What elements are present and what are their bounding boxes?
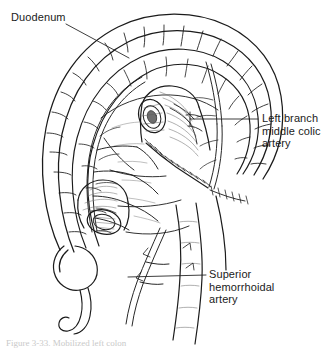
- label-left-branch-middle-colic-artery: Left branchmiddle colicartery: [262, 112, 321, 150]
- leader-duodenum: [66, 24, 129, 58]
- label-line-1: Left branch: [262, 112, 318, 124]
- cecum: [53, 246, 97, 290]
- label-line-2: hemorrhoidal: [209, 281, 274, 293]
- anatomical-figure: Duodenum Left branchmiddle colicartery S…: [0, 0, 328, 349]
- vascular-twigs: [96, 98, 218, 213]
- label-superior-hemorrhoidal-artery: Superiorhemorrhoidalartery: [209, 268, 274, 306]
- figure-caption: Figure 3-33. Mobilized left colon: [6, 338, 126, 348]
- label-line-2: middle colic: [262, 125, 321, 137]
- label-duodenum: Duodenum: [11, 11, 66, 24]
- appendix: [59, 288, 91, 334]
- suture-line-right: [210, 186, 248, 204]
- label-line-1: Superior: [209, 268, 251, 280]
- label-line-3: artery: [262, 137, 291, 149]
- illustration-canvas: [0, 0, 328, 349]
- label-line-3: artery: [209, 293, 238, 305]
- colon-inner-loop: [72, 49, 258, 248]
- conduit-striations: [160, 92, 198, 156]
